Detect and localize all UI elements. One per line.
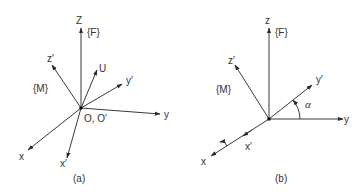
- rotation-about-x-icon: [220, 142, 227, 146]
- label-frame-F: {F}: [275, 27, 288, 38]
- label-y: y: [164, 109, 169, 120]
- axis-z-prime: [235, 65, 269, 119]
- label-frame-F: {F}: [87, 27, 100, 38]
- label-x-prime: x′: [245, 141, 252, 152]
- axis-x-prime-marker: [243, 130, 252, 136]
- origin-point: [79, 106, 83, 110]
- coordinate-frames-diagram: Z {F} z′ U y′ y x x′ {M} O, O′ (a) z {F}…: [0, 0, 364, 195]
- panel-a: Z {F} z′ U y′ y x x′ {M} O, O′ (a): [19, 15, 169, 184]
- axis-y-prime: [81, 84, 122, 108]
- label-frame-M: {M}: [216, 84, 232, 95]
- axis-x: [211, 119, 269, 156]
- axis-z-prime: [52, 65, 81, 108]
- angle-alpha-arc: [293, 100, 300, 119]
- label-z-prime: z′: [47, 53, 54, 64]
- label-alpha: α: [305, 98, 311, 110]
- caption-a: (a): [73, 173, 85, 184]
- label-U: U: [99, 63, 106, 74]
- label-Z: Z: [76, 15, 82, 26]
- label-x: x: [201, 156, 206, 167]
- caption-b: (b): [275, 173, 287, 184]
- origin-point: [267, 117, 271, 121]
- label-x: x: [19, 151, 24, 162]
- axis-x-prime: [67, 108, 81, 158]
- label-frame-M: {M}: [33, 83, 49, 94]
- axis-x: [28, 108, 81, 150]
- panel-b: z {F} z′ {M} y′ y x x′ α (b): [201, 15, 349, 184]
- label-origin: O, O′: [84, 113, 107, 124]
- axis-U: [81, 70, 97, 108]
- label-y-prime: y′: [126, 75, 133, 86]
- label-y-prime: y′: [316, 74, 323, 85]
- label-z: z: [265, 15, 270, 26]
- label-x-prime: x′: [60, 158, 67, 169]
- label-y: y: [344, 114, 349, 125]
- label-z-prime: z′: [228, 55, 235, 66]
